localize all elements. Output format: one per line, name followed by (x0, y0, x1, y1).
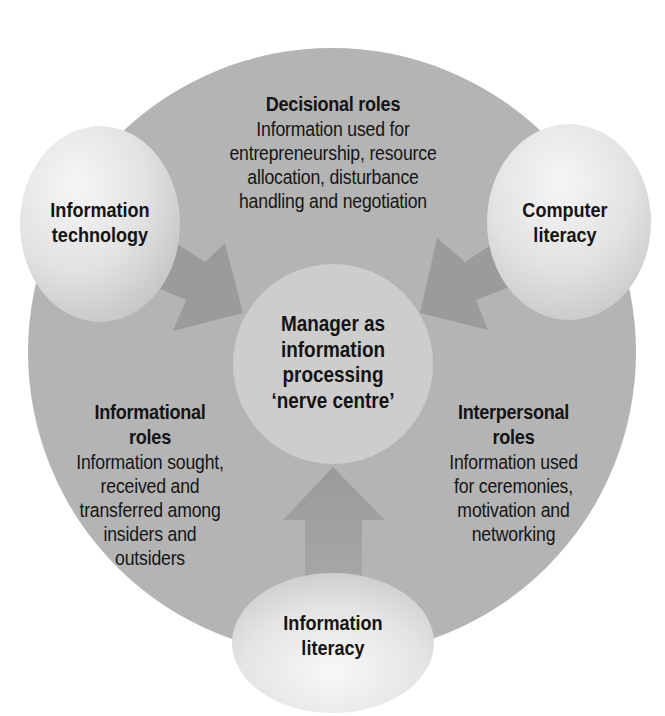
information-technology-label: Information technology (10, 198, 190, 248)
computer-literacy-text: Computer literacy (492, 198, 638, 248)
information-technology-text: Information technology (23, 198, 178, 248)
center-label: Manager as information processing ‘nerve… (243, 311, 423, 413)
diagram-canvas: Decisional roles Information used for en… (0, 0, 665, 716)
decisional-roles-description: Information used for entrepreneurship, r… (176, 117, 491, 214)
computer-literacy-label: Computer literacy (480, 198, 650, 248)
decisional-roles-title: Decisional roles (176, 92, 491, 117)
informational-roles-title: Informational roles (55, 400, 244, 450)
interpersonal-roles-label: Interpersonal roles Information used for… (406, 400, 621, 546)
decisional-roles-label: Decisional roles Information used for en… (150, 92, 516, 214)
information-literacy-text: Information literacy (264, 611, 402, 661)
interpersonal-roles-title: Interpersonal roles (421, 400, 606, 450)
informational-roles-label: Informational roles Information sought, … (40, 400, 260, 570)
interpersonal-roles-description: Information used for ceremonies, motivat… (421, 450, 606, 547)
center-text: Manager as information processing ‘nerve… (256, 311, 411, 413)
information-literacy-label: Information literacy (253, 611, 413, 661)
informational-roles-description: Information sought, received and transfe… (55, 450, 244, 571)
